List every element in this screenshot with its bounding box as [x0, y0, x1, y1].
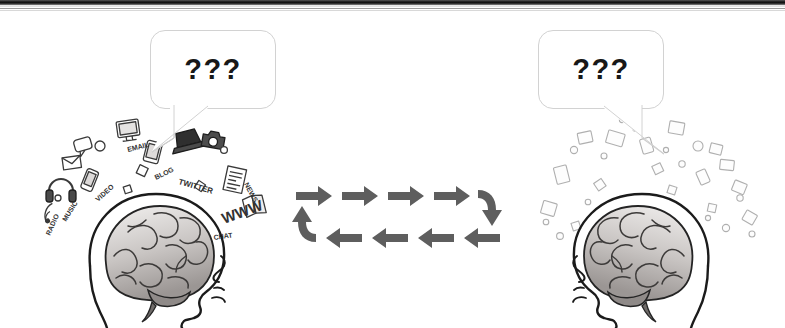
right-bubble-text: ???	[539, 54, 663, 83]
word-radio: RADIO	[45, 212, 61, 236]
fragment-icon	[570, 146, 577, 153]
arrow-right	[388, 186, 424, 206]
fragment-icon	[585, 199, 591, 205]
arrow-curve-down	[478, 190, 502, 226]
fragment-icon	[679, 161, 685, 167]
brain-illustration	[584, 206, 692, 322]
fragment-icon	[693, 141, 703, 151]
fragment-icon	[707, 203, 716, 212]
smartphone-icon	[80, 168, 99, 192]
fragment-icon	[543, 219, 549, 225]
word-blog: BLOG	[153, 165, 175, 180]
left-bubble-text: ???	[151, 54, 275, 83]
scan-border-highlight	[0, 5, 785, 7]
scan-border-dark	[0, 0, 785, 5]
word-twitter: TWITTER	[177, 177, 214, 196]
right-bubble-tail	[590, 104, 680, 160]
fragment-icon	[667, 185, 677, 195]
arrow-right	[342, 186, 378, 206]
fragment-icon	[709, 143, 723, 156]
fragment-icon	[720, 159, 735, 170]
chat-bubble-icon	[73, 136, 94, 157]
fragment-icon	[737, 195, 743, 201]
arrow-left	[372, 228, 408, 248]
fragment-icon	[95, 141, 105, 151]
diagram-canvas: WWW TWITTER BLOG NEWS RADIO MUSIC VIDEO …	[0, 0, 785, 328]
arrow-left	[326, 228, 362, 248]
fragment-icon	[123, 185, 132, 194]
fragment-icon	[540, 200, 557, 216]
fragment-icon	[594, 178, 606, 190]
fragment-icon	[749, 231, 755, 237]
arrow-right	[434, 186, 470, 206]
scan-border-rule-secondary	[0, 10, 785, 11]
arrow-left	[464, 228, 500, 248]
fragment-icon	[742, 210, 758, 226]
arrow-group-rightward	[292, 186, 502, 248]
mail-icon	[62, 155, 81, 169]
scan-border-rule	[0, 8, 785, 9]
bidirectional-exchange-loop	[292, 182, 504, 258]
fragment-icon	[136, 165, 148, 177]
monitor-icon	[116, 119, 141, 142]
arrow-left	[418, 228, 454, 248]
fragment-icon	[705, 215, 710, 220]
fragment-icon	[557, 233, 564, 240]
left-bubble-tail	[150, 104, 230, 160]
newspaper-icon	[223, 166, 247, 193]
fragment-icon	[731, 180, 747, 195]
fragment-icon	[696, 169, 711, 186]
word-video: VIDEO	[94, 183, 115, 203]
arrow-right	[296, 186, 332, 206]
word-music: MUSIC	[61, 200, 79, 223]
brain-illustration	[106, 206, 214, 322]
fragment-icon	[652, 163, 664, 175]
left-thought-bubble: ???	[150, 30, 276, 109]
fragment-icon	[55, 195, 61, 201]
fragment-icon	[722, 224, 729, 231]
right-thought-bubble: ???	[538, 30, 664, 109]
fragment-icon	[553, 165, 570, 185]
arrow-curve-up	[292, 206, 316, 242]
